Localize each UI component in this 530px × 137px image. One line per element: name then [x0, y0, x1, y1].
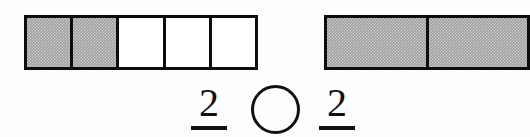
fraction-right-numerator: 2 — [314, 83, 360, 123]
bar-cell-empty[interactable] — [166, 18, 212, 67]
fraction-left-numerator: 2 — [186, 83, 232, 123]
bar-cell-shaded[interactable] — [27, 18, 73, 67]
bar-cell-empty[interactable] — [212, 18, 255, 67]
bar-cell-empty[interactable] — [119, 18, 165, 67]
bar-cell-shaded[interactable] — [73, 18, 119, 67]
fraction-left: 2 — [186, 83, 232, 130]
bar-cell-shaded[interactable] — [429, 18, 528, 67]
fraction-right-vinculum — [319, 126, 355, 130]
fraction-left-vinculum — [191, 126, 227, 130]
fraction-bar-model-right — [324, 15, 530, 70]
comparison-answer-circle[interactable] — [251, 85, 300, 134]
bar-cell-shaded[interactable] — [327, 18, 429, 67]
fraction-right: 2 — [314, 83, 360, 130]
fraction-bar-model-left — [24, 15, 258, 70]
